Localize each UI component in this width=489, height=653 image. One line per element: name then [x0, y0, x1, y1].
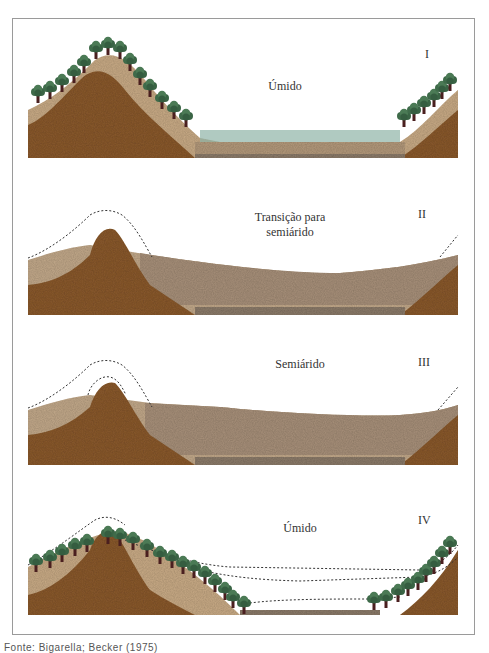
panel-numeral: I — [425, 47, 429, 62]
panel-label: Transição para semiárido — [240, 210, 340, 240]
panel-semiarid: Semiárido III — [0, 345, 489, 470]
panel-label-line2: semiárido — [240, 225, 340, 240]
panel-transition: Transição para semiárido II — [0, 195, 489, 320]
panel-label: Úmido — [255, 79, 315, 94]
panel-numeral: III — [418, 355, 430, 370]
panel-label: Úmido — [270, 521, 330, 536]
figure-source: Fonte: Bigarella; Becker (1975) — [4, 642, 158, 653]
panel-humid-2: Úmido IV — [0, 495, 489, 620]
panel-label-line1: Transição para — [240, 210, 340, 225]
panel-humid-1: Úmido I — [0, 30, 489, 160]
landscape-profile-4 — [0, 495, 489, 620]
panel-label: Semiárido — [260, 357, 340, 372]
landscape-profile-1 — [0, 30, 489, 160]
panel-numeral: IV — [418, 513, 431, 528]
landscape-profile-3 — [0, 345, 489, 470]
panel-numeral: II — [418, 207, 426, 222]
